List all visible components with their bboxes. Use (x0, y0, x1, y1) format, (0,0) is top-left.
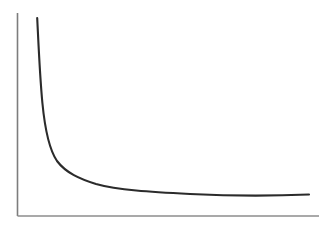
plot-area (0, 0, 330, 226)
decay-curve-figure (0, 0, 330, 226)
decay-curve (37, 18, 309, 196)
